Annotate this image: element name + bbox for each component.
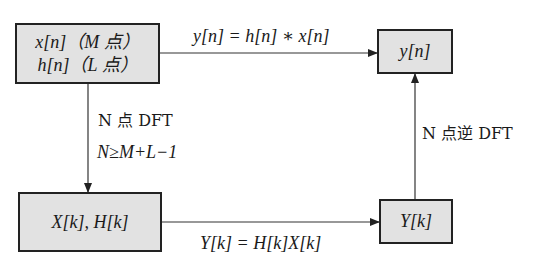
edge-label-convolution: y[n] = h[n] ∗ x[n] [193,26,329,46]
node-input-line2: h[n]（L 点） [37,54,137,77]
node-output-time-label: y[n] [400,40,431,63]
edge-label-idft: N 点逆 DFT [422,124,513,144]
node-output-freq-label: Y[k] [400,210,432,233]
node-output-freq: Y[k] [379,199,453,244]
edge-label-dft: N 点 DFT [98,111,173,131]
node-input-sequences: x[n]（M 点） h[n]（L 点） [15,23,160,84]
edge-label-product: Y[k] = H[k]X[k] [200,233,321,253]
node-output-time: y[n] [377,29,453,74]
edge-label-dft-condition: N≥M+L−1 [97,142,177,162]
node-freq-input: X[k], H[k] [18,192,162,252]
node-input-line1: x[n]（M 点） [35,31,140,54]
node-freq-input-label: X[k], H[k] [52,211,129,234]
